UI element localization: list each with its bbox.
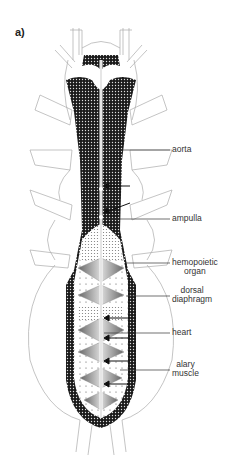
label-hemopoietic-organ: hemopoietic organ: [172, 258, 218, 276]
label-line: organ: [172, 267, 218, 276]
label-line: muscle: [172, 369, 199, 378]
label-alary-muscle: alary muscle: [172, 360, 199, 378]
label-aorta: aorta: [172, 145, 191, 154]
label-dorsal-diaphragm: dorsal diaphragm: [172, 286, 212, 304]
label-heart: heart: [172, 328, 191, 337]
label-ampulla: ampulla: [172, 214, 202, 223]
label-line: diaphragm: [172, 295, 212, 304]
insect-dorsal-vessel-diagram: [0, 0, 236, 459]
